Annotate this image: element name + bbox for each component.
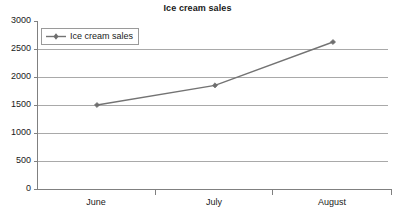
- y-tick-label-0: 0: [26, 183, 31, 193]
- y-tick-label-1000: 1000: [11, 127, 31, 137]
- chart-legend: Ice cream sales: [41, 28, 139, 45]
- x-tick-label-august: August: [318, 197, 347, 207]
- y-tick-label-2000: 2000: [11, 71, 31, 81]
- data-point-june: [94, 102, 99, 107]
- legend-marker-icon: [46, 31, 66, 42]
- y-tick-label-2500: 2500: [11, 43, 31, 53]
- data-point-july: [212, 83, 217, 88]
- x-tick-label-june: June: [86, 197, 106, 207]
- y-tick-label-3000: 3000: [11, 15, 31, 25]
- y-tick-label-1500: 1500: [11, 99, 31, 109]
- gridlines: [38, 49, 388, 161]
- series-markers: [94, 39, 335, 107]
- legend-entry-label: Ice cream sales: [70, 32, 133, 41]
- series-line: [97, 42, 333, 105]
- series-ice-cream-sales: [94, 39, 335, 107]
- line-chart: Ice cream sales 3000 2500 2000 1500: [0, 0, 395, 214]
- y-tick-label-500: 500: [16, 155, 31, 165]
- x-tick-label-july: July: [206, 197, 223, 207]
- data-point-august: [330, 39, 335, 44]
